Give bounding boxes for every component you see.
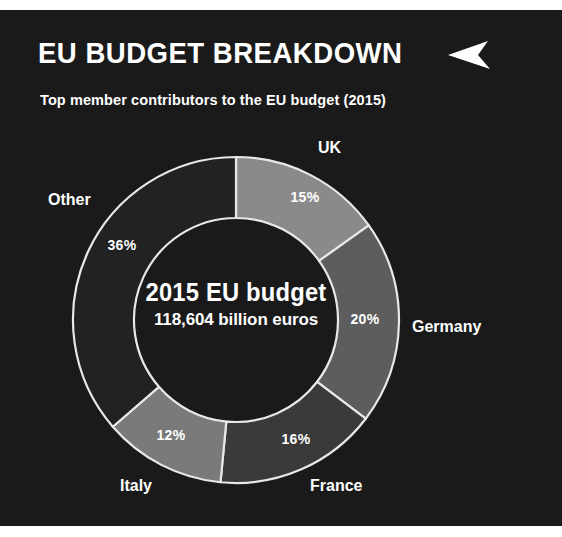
percent-label-italy: 12% (157, 427, 186, 443)
category-label-uk: UK (318, 139, 341, 157)
donut-chart: 15%20%16%12%36% UK Germany France Italy … (0, 10, 562, 526)
infographic-page: EU BUDGET BREAKDOWN Top member contribut… (0, 0, 562, 537)
category-label-france: France (310, 477, 362, 495)
category-label-other: Other (48, 191, 91, 209)
center-title: 2015 EU budget (94, 278, 379, 307)
center-subtitle: 118,604 billion euros (86, 310, 386, 330)
chart-panel: EU BUDGET BREAKDOWN Top member contribut… (0, 10, 562, 526)
percent-label-other: 36% (108, 237, 137, 253)
category-label-germany: Germany (412, 318, 481, 336)
percent-label-france: 16% (282, 431, 311, 447)
donut-svg: 15%20%16%12%36% (0, 10, 562, 526)
category-label-italy: Italy (120, 477, 152, 495)
percent-label-uk: 15% (291, 189, 320, 205)
